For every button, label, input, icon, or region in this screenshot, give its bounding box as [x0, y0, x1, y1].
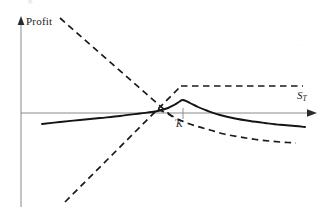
y-axis	[18, 16, 25, 207]
top-edge-artifact-right: .	[300, 38, 302, 48]
x-axis-subscript: T	[303, 94, 307, 103]
long-stock-dashed-line	[65, 86, 181, 202]
strike-price-label: K	[176, 118, 183, 129]
y-axis-label: Profit	[26, 15, 52, 27]
short-stock-dashed-line	[60, 18, 176, 120]
x-axis-label: ST	[297, 89, 307, 103]
profit-diagram-figure: g . Profit ST K	[0, 0, 330, 210]
chart-canvas	[0, 0, 330, 210]
top-edge-artifact-left: g	[28, 0, 33, 4]
